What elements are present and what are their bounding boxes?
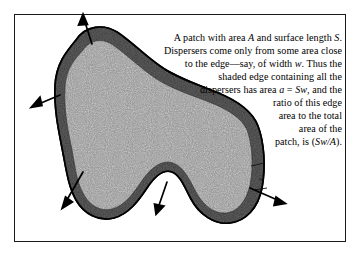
caption-line-8: area of the: [96, 122, 342, 135]
figure-caption: A patch with area A and surface length S…: [96, 31, 342, 148]
caption-line-9: patch, is (Sw/A).: [96, 135, 342, 148]
arrow-bottom: [155, 182, 168, 215]
caption-line-3: to the edge—say, of width w. Thus the: [96, 57, 342, 70]
caption-line-1: A patch with area A and surface length S…: [96, 31, 342, 44]
caption-line-7: area to the total: [96, 109, 342, 122]
caption-line-6: ratio of this edge: [96, 96, 342, 109]
caption-line-4: shaded edge containing all the: [96, 70, 342, 83]
caption-line-2: Dispersers come only from some area clos…: [96, 44, 342, 57]
figure-container: w A patch with area A and surface length…: [0, 0, 360, 257]
caption-line-5: dispersers has area a = Sw, and the: [96, 83, 342, 96]
width-marker-label: w: [259, 176, 263, 182]
